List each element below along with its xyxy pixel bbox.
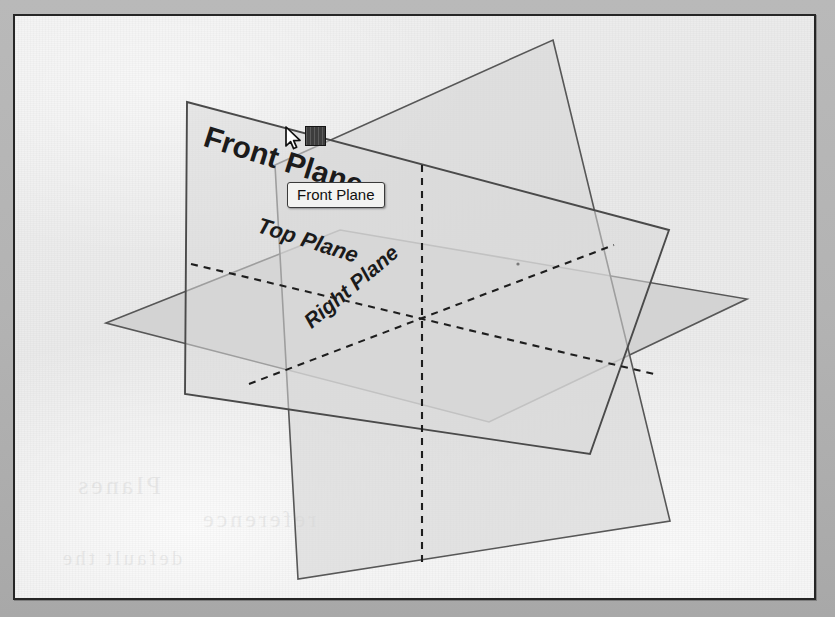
viewport-scene[interactable] <box>15 16 814 598</box>
scan-speck <box>516 262 519 265</box>
scanned-page: Planes reference default the <box>0 0 835 617</box>
planes-svg <box>15 16 810 594</box>
plane-tooltip: Front Plane <box>287 182 385 208</box>
figure-frame: Planes reference default the <box>13 14 816 600</box>
